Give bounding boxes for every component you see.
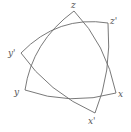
reuleaux-diagram: z z' y' y x x' [0,0,131,132]
label-z-prime: z' [109,16,117,26]
label-y: y [13,87,20,97]
curved-triangle-2 [21,22,109,113]
label-z: z [70,0,76,10]
label-y-prime: y' [7,48,16,58]
label-x: x [118,89,123,99]
label-x-prime: x' [88,116,96,126]
